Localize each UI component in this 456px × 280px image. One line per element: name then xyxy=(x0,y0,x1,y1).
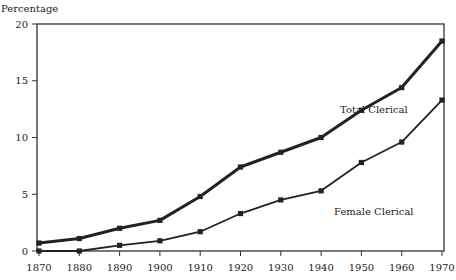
data-point-marker xyxy=(77,236,82,241)
data-point-marker xyxy=(157,238,162,243)
x-tick-label: 1950 xyxy=(349,262,374,273)
x-tick-label: 1920 xyxy=(228,262,253,273)
y-tick-label: 0 xyxy=(22,246,28,257)
y-tick-label: 15 xyxy=(15,75,28,86)
data-point-marker xyxy=(238,211,243,216)
x-tick-label: 1910 xyxy=(187,262,212,273)
data-point-marker xyxy=(359,160,364,165)
data-point-marker xyxy=(117,226,122,231)
x-tick-label: 1930 xyxy=(268,262,293,273)
x-tick-label: 1960 xyxy=(389,262,414,273)
x-tick-label: 1970 xyxy=(429,262,454,273)
x-tick-label: 1890 xyxy=(107,262,132,273)
x-tick-label: 1880 xyxy=(67,262,92,273)
y-tick-label: 5 xyxy=(22,189,28,200)
data-point-marker xyxy=(399,85,404,90)
series-label: Female Clerical xyxy=(334,206,414,217)
data-point-marker xyxy=(117,243,122,248)
data-point-marker xyxy=(439,97,444,102)
data-point-marker xyxy=(319,188,324,193)
data-point-marker xyxy=(36,240,41,245)
series-line-1 xyxy=(39,100,442,251)
x-tick-label: 1900 xyxy=(147,262,172,273)
x-tick-label: 1940 xyxy=(308,262,333,273)
data-point-marker xyxy=(198,229,203,234)
data-point-marker xyxy=(319,135,324,140)
data-point-marker xyxy=(439,38,444,43)
data-point-marker xyxy=(399,139,404,144)
data-point-marker xyxy=(36,248,41,253)
x-tick-label: 1870 xyxy=(26,262,51,273)
data-point-marker xyxy=(77,248,82,253)
y-tick-label: 10 xyxy=(15,132,28,143)
data-point-marker xyxy=(157,218,162,223)
data-point-marker xyxy=(278,197,283,202)
series-label: Total Clerical xyxy=(340,104,408,115)
data-point-marker xyxy=(238,164,243,169)
y-tick-label: 20 xyxy=(15,19,28,30)
line-chart: 0510152018701880189019001910192019301940… xyxy=(0,0,456,280)
data-point-marker xyxy=(198,194,203,199)
data-point-marker xyxy=(278,150,283,155)
